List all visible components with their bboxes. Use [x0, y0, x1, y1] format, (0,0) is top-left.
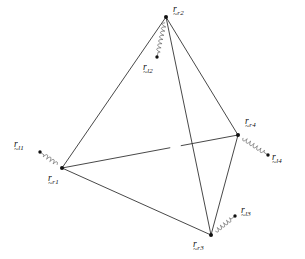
- label-r_r2: rr2: [173, 5, 184, 17]
- label-subscript-r_l1: l1: [18, 144, 24, 152]
- label-r_r3: rr3: [193, 240, 204, 252]
- node-r_r4: [236, 133, 240, 137]
- label-base-r_l3: r: [241, 205, 245, 215]
- label-subscript-r_r3: r3: [197, 244, 204, 252]
- edges-group: [62, 17, 238, 235]
- edge-r_r2-r_r3: [166, 17, 211, 235]
- spring-r_r3-r_l3: [216, 217, 234, 232]
- label-base-r_l1: r: [14, 139, 18, 149]
- node-r_r3: [209, 233, 213, 237]
- label-r_l3: rl3: [241, 206, 251, 218]
- node-r_l1: [38, 150, 41, 153]
- label-r_r4: rr4: [245, 117, 256, 129]
- nodes-group: [38, 15, 269, 237]
- node-r_r1: [60, 166, 64, 170]
- edge-r_r2-r_r4: [166, 17, 238, 135]
- label-r_r1: rr1: [48, 174, 59, 186]
- node-r_r2: [164, 15, 168, 19]
- edge-r_r2-r_r1: [62, 17, 166, 168]
- label-subscript-r_l2: l2: [147, 67, 153, 75]
- label-base-r_r1: r: [48, 173, 52, 183]
- diagram-canvas: [0, 0, 305, 259]
- edge-r_r1-r_r4-part2: [181, 135, 238, 146]
- node-r_l2: [155, 55, 158, 58]
- label-r_l1: rl1: [14, 140, 24, 152]
- edge-r_r1-r_r4-part1: [62, 148, 170, 168]
- label-r_l2: rl2: [143, 63, 153, 75]
- tetrahedron-diagram: rr2rr1rr4rr3rl2rl1rl4rl3: [0, 0, 305, 259]
- label-base-r_l2: r: [143, 62, 147, 72]
- label-r_l4: rl4: [272, 153, 282, 165]
- label-subscript-r_r4: r4: [249, 121, 256, 129]
- node-r_l4: [266, 153, 269, 156]
- label-base-r_r4: r: [245, 116, 249, 126]
- spring-r_r4-r_l4: [243, 138, 267, 154]
- label-subscript-r_l4: l4: [276, 157, 282, 165]
- label-base-r_l4: r: [272, 152, 276, 162]
- label-subscript-r_r2: r2: [177, 9, 184, 17]
- node-r_l3: [233, 214, 236, 217]
- label-base-r_r2: r: [173, 4, 177, 14]
- label-subscript-r_r1: r1: [52, 178, 59, 186]
- label-subscript-r_l3: l3: [245, 210, 251, 218]
- label-base-r_r3: r: [193, 239, 197, 249]
- spring-r_r1-r_l1: [41, 153, 57, 165]
- edge-r_r4-r_r3: [211, 135, 238, 235]
- edge-r_r1-r_r3: [62, 168, 211, 235]
